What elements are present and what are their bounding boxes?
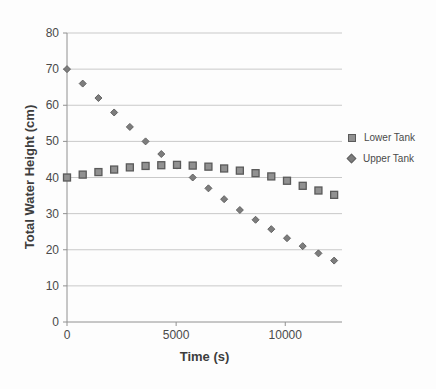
legend-entry-lower-tank: Lower Tank [348, 127, 415, 148]
y-tick-label: 80 [46, 26, 60, 40]
y-tick-label: 50 [46, 134, 60, 148]
y-tick-label: 30 [46, 207, 60, 221]
data-point-lower-tank [64, 174, 71, 181]
data-point-lower-tank [331, 191, 338, 198]
data-point-lower-tank [236, 167, 243, 174]
data-point-upper-tank [299, 243, 306, 250]
legend: Lower Tank Upper Tank [348, 127, 415, 169]
data-point-upper-tank [158, 151, 165, 158]
legend-entry-upper-tank: Upper Tank [348, 148, 415, 169]
data-point-lower-tank [284, 177, 291, 184]
y-tick-label: 40 [46, 171, 60, 185]
data-point-lower-tank [142, 162, 149, 169]
x-axis-title: Time (s) [67, 349, 342, 364]
data-point-lower-tank [95, 169, 102, 176]
data-point-lower-tank [174, 161, 181, 168]
legend-label-lower-tank: Lower Tank [364, 132, 415, 143]
data-point-upper-tank [268, 226, 275, 233]
scatter-chart: 010203040506070800500010000 Total Water … [0, 0, 436, 389]
data-point-lower-tank [299, 182, 306, 189]
data-point-upper-tank [79, 80, 86, 87]
data-point-upper-tank [252, 216, 259, 223]
data-point-upper-tank [142, 138, 149, 145]
y-tick-label: 60 [46, 98, 60, 112]
x-tick-label: 5000 [163, 328, 190, 342]
data-point-upper-tank [189, 174, 196, 181]
data-point-upper-tank [284, 235, 291, 242]
y-axis-title: Total Water Height (cm) [22, 105, 37, 249]
legend-label-upper-tank: Upper Tank [363, 153, 414, 164]
y-tick-label: 20 [46, 243, 60, 257]
data-point-upper-tank [111, 109, 118, 116]
data-point-upper-tank [331, 257, 338, 264]
data-point-lower-tank [79, 171, 86, 178]
data-point-lower-tank [252, 170, 259, 177]
data-point-lower-tank [221, 165, 228, 172]
data-point-lower-tank [205, 163, 212, 170]
x-tick-label: 10000 [269, 328, 303, 342]
y-tick-label: 70 [46, 62, 60, 76]
data-point-upper-tank [315, 250, 322, 257]
square-marker-icon [348, 134, 356, 142]
data-point-lower-tank [268, 173, 275, 180]
y-tick-label: 0 [52, 315, 59, 329]
data-point-upper-tank [64, 66, 71, 73]
y-tick-label: 10 [46, 279, 60, 293]
data-point-upper-tank [95, 95, 102, 102]
diamond-marker-icon [347, 154, 357, 164]
data-point-lower-tank [158, 162, 165, 169]
plot-area: 010203040506070800500010000 [0, 0, 436, 389]
data-point-lower-tank [111, 166, 118, 173]
data-point-upper-tank [205, 185, 212, 192]
data-point-upper-tank [126, 123, 133, 130]
data-point-lower-tank [126, 164, 133, 171]
data-point-upper-tank [221, 196, 228, 203]
data-point-upper-tank [236, 207, 243, 214]
data-point-lower-tank [315, 187, 322, 194]
data-point-lower-tank [189, 162, 196, 169]
x-tick-label: 0 [64, 328, 71, 342]
